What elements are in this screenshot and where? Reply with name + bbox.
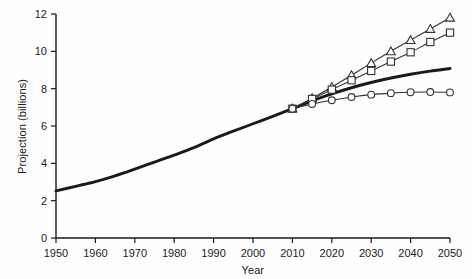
y-tick-label: 10 <box>35 45 47 57</box>
y-tick-label: 8 <box>41 83 47 95</box>
y-tick-label: 0 <box>41 232 47 244</box>
data-point-circle <box>309 101 316 108</box>
x-tick-label: 2040 <box>398 247 422 259</box>
x-tick-label: 1950 <box>44 247 68 259</box>
data-point-circle <box>289 105 296 112</box>
data-point-triangle <box>426 25 435 33</box>
data-point-triangle <box>367 59 376 67</box>
x-tick-label: 1970 <box>123 247 147 259</box>
series-line <box>56 69 450 191</box>
series-historical-and-medium-projection <box>56 69 450 191</box>
data-point-circle <box>447 89 454 96</box>
data-point-square <box>407 49 414 56</box>
data-point-circle <box>368 91 375 98</box>
data-point-circle <box>348 94 355 101</box>
data-point-triangle <box>387 47 396 55</box>
x-tick-label: 2020 <box>320 247 344 259</box>
chart-figure: 0246810121950196019701980199020002010202… <box>0 0 472 279</box>
x-tick-label: 2010 <box>280 247 304 259</box>
data-point-circle <box>427 89 434 96</box>
data-point-circle <box>388 90 395 97</box>
projection-line-chart: 0246810121950196019701980199020002010202… <box>0 0 472 279</box>
series-layer <box>56 13 454 191</box>
tick-label-layer: 0246810121950196019701980199020002010202… <box>35 8 462 259</box>
data-point-square <box>328 86 335 93</box>
y-tick-label: 2 <box>41 195 47 207</box>
x-tick-label: 2050 <box>438 247 462 259</box>
data-point-triangle <box>406 36 415 44</box>
data-point-circle <box>328 97 335 104</box>
data-point-square <box>368 67 375 74</box>
x-tick-label: 1960 <box>83 247 107 259</box>
x-tick-label: 1980 <box>162 247 186 259</box>
data-point-circle <box>407 89 414 96</box>
data-point-square <box>446 29 453 36</box>
x-axis-title: Year <box>242 264 265 276</box>
data-point-triangle <box>446 13 455 21</box>
x-tick-label: 2030 <box>359 247 383 259</box>
x-tick-label: 1990 <box>201 247 225 259</box>
y-tick-label: 12 <box>35 8 47 20</box>
y-tick-label: 6 <box>41 120 47 132</box>
y-axis-title: Projection (billions) <box>16 78 28 173</box>
data-point-square <box>348 77 355 84</box>
data-point-square <box>387 58 394 65</box>
x-tick-label: 2000 <box>241 247 265 259</box>
y-tick-label: 4 <box>41 157 47 169</box>
data-point-square <box>427 38 434 45</box>
